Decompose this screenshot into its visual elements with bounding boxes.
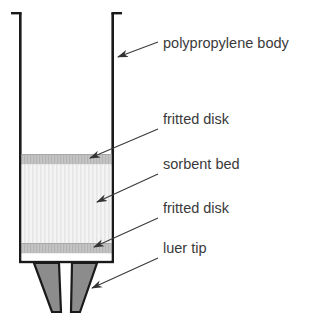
label-sorbent-bed: sorbent bed [163,156,240,172]
body-right-wall [111,13,114,263]
luer-tip-left-wall [34,263,61,312]
fritted-disk-bottom-band [22,243,112,254]
diagram-canvas: polypropylene body fritted disk sorbent … [0,0,331,327]
fritted-disk-top-band [22,154,112,165]
body-rim-lip-left [11,12,22,14]
leader-polypropylene-body [118,42,158,57]
sorbent-bed-group [22,165,112,244]
fritted-disk-top-group [22,154,112,165]
body-rim-lip-right [111,12,122,14]
sorbent-bed-fill [22,165,112,244]
below-frit-gap [22,254,112,261]
label-fritted-disk-top: fritted disk [163,111,230,127]
fritted-disk-bottom-edge [22,243,112,244]
spe-cartridge-diagram: polypropylene body fritted disk sorbent … [0,0,331,327]
label-polypropylene-body: polypropylene body [163,35,290,51]
callout-labels: polypropylene body fritted disk sorbent … [163,35,290,256]
label-luer-tip: luer tip [163,240,207,256]
label-fritted-disk-bottom: fritted disk [163,200,230,216]
luer-tip-group [34,263,97,312]
body-left-wall [19,13,22,263]
